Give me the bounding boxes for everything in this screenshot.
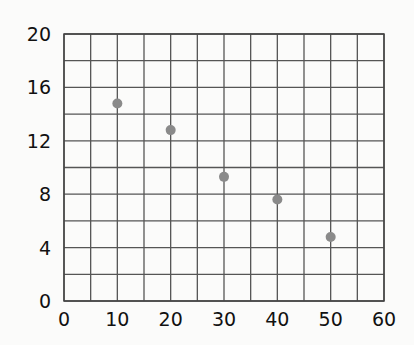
- data-point-marker: [326, 232, 336, 242]
- x-tick-label: 40: [265, 308, 289, 330]
- x-tick-label: 0: [58, 308, 70, 330]
- x-tick-label: 60: [372, 308, 396, 330]
- y-tick-label: 0: [39, 290, 51, 312]
- y-axis-tick-labels: 048121620: [27, 23, 51, 312]
- x-tick-label: 30: [212, 308, 236, 330]
- y-tick-label: 12: [27, 130, 51, 152]
- grid-lines: [64, 34, 384, 301]
- y-tick-label: 4: [39, 237, 51, 259]
- data-point-marker: [219, 172, 229, 182]
- scatter-chart: 048121620 0102030405060: [0, 0, 414, 345]
- x-tick-label: 50: [319, 308, 343, 330]
- y-tick-label: 16: [27, 76, 51, 98]
- data-point-marker: [272, 195, 282, 205]
- x-tick-label: 10: [105, 308, 129, 330]
- x-tick-label: 20: [159, 308, 183, 330]
- y-tick-label: 8: [39, 183, 51, 205]
- y-tick-label: 20: [27, 23, 51, 45]
- x-axis-tick-labels: 0102030405060: [58, 308, 396, 330]
- data-point-marker: [112, 98, 122, 108]
- data-point-marker: [166, 125, 176, 135]
